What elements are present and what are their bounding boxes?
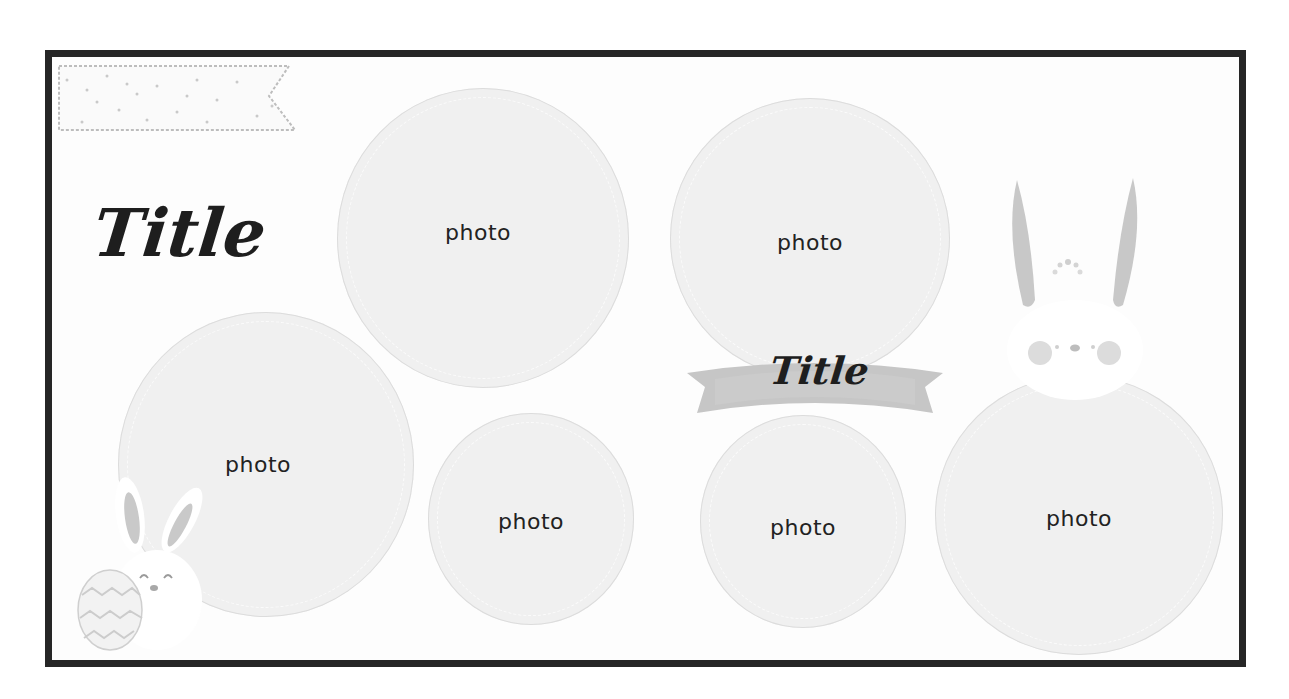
photo-placeholder-label: photo bbox=[498, 509, 564, 534]
dotted-flag-banner-icon bbox=[57, 64, 297, 132]
photo-placeholder-label: photo bbox=[1046, 506, 1112, 531]
photo-placeholder-label: photo bbox=[225, 452, 291, 477]
photo-bottom-center-left[interactable]: photo bbox=[428, 413, 634, 625]
photo-placeholder-label: photo bbox=[770, 515, 836, 540]
bunny-with-egg-icon bbox=[72, 470, 212, 655]
photo-right[interactable]: photo bbox=[935, 375, 1223, 655]
photo-top-left[interactable]: photo bbox=[337, 88, 629, 388]
main-title[interactable]: Title bbox=[91, 200, 270, 266]
bunny-peeking-icon bbox=[995, 170, 1155, 400]
ribbon-title[interactable]: Title bbox=[768, 352, 871, 390]
photo-bottom-center-right[interactable]: photo bbox=[700, 415, 906, 628]
photo-placeholder-label: photo bbox=[777, 230, 843, 255]
photo-top-right[interactable]: photo bbox=[670, 98, 950, 378]
photo-placeholder-label: photo bbox=[445, 220, 511, 245]
